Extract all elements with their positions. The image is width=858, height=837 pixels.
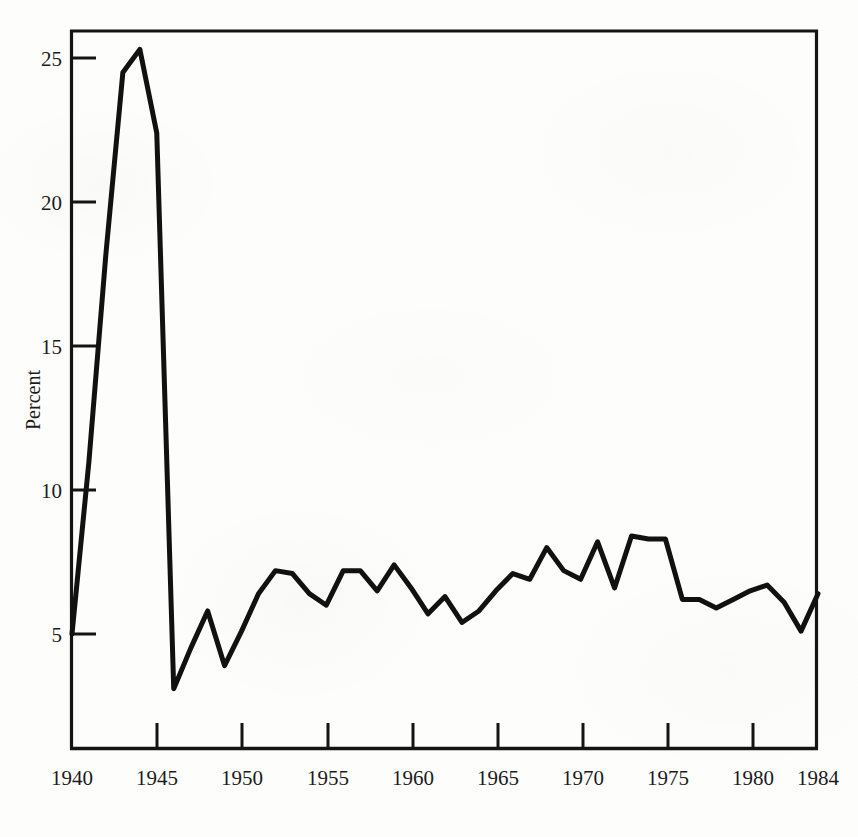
y-axis-ticks <box>72 58 96 634</box>
x-tick-label-1955: 1955 <box>307 766 349 790</box>
line-chart: 25 20 15 10 5 Percent 1940 1945 1950 195… <box>0 0 858 837</box>
figure-page: 25 20 15 10 5 Percent 1940 1945 1950 195… <box>0 0 858 837</box>
x-tick-label-1945: 1945 <box>136 766 178 790</box>
x-tick-label-1980: 1980 <box>732 766 774 790</box>
x-axis-tick-labels: 1940 1945 1950 1955 1960 1965 1970 1975 … <box>51 766 840 790</box>
y-tick-label-20: 20 <box>41 191 62 215</box>
x-tick-label-1970: 1970 <box>562 766 604 790</box>
y-axis-title: Percent <box>22 370 44 430</box>
x-axis-ticks <box>157 723 753 747</box>
x-tick-label-1975: 1975 <box>647 766 689 790</box>
y-tick-label-5: 5 <box>52 623 63 647</box>
x-tick-label-1965: 1965 <box>477 766 519 790</box>
y-tick-label-25: 25 <box>41 47 62 71</box>
x-tick-label-1950: 1950 <box>221 766 263 790</box>
x-tick-label-1940: 1940 <box>51 766 93 790</box>
y-axis-tick-labels: 25 20 15 10 5 <box>41 47 62 647</box>
x-tick-label-1984: 1984 <box>797 766 840 790</box>
y-tick-label-15: 15 <box>41 335 62 359</box>
series-line-percent <box>72 49 818 688</box>
plot-frame <box>70 30 818 750</box>
y-tick-label-10: 10 <box>41 479 62 503</box>
x-tick-label-1960: 1960 <box>392 766 434 790</box>
